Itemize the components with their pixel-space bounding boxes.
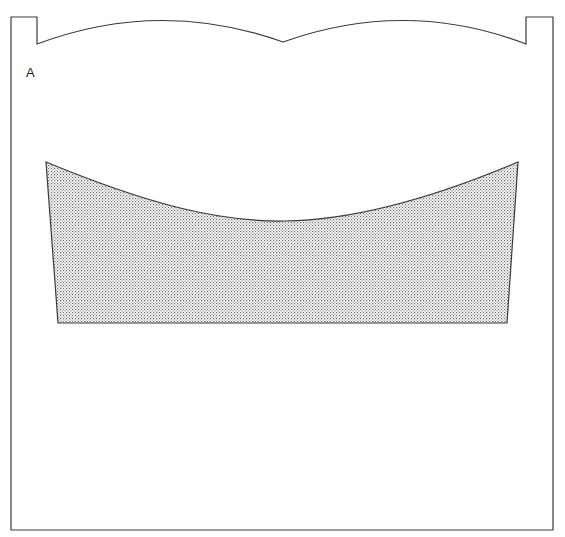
shaded-region (46, 162, 518, 323)
figure-label: A (26, 65, 35, 80)
figure-drawing (0, 0, 565, 537)
